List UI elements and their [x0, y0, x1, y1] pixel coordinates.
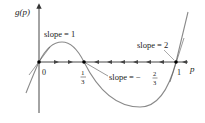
- g-curve: [26, 12, 188, 107]
- arrow-left-icon: [94, 60, 99, 64]
- slope-label-at-1: slope = 2: [137, 40, 168, 50]
- y-axis-label: g(p): [15, 7, 30, 17]
- arrow-left-icon: [182, 60, 187, 64]
- arrow-right-icon: [68, 60, 73, 64]
- slope-label-at-one-third-num: 2: [153, 70, 156, 77]
- point-label-1: 1: [177, 68, 181, 77]
- slope-label-at-0: slope = 1: [44, 29, 75, 39]
- point-label-one-third-den: 3: [81, 78, 85, 86]
- arrow-left-icon: [107, 60, 112, 64]
- equilibrium-point-1: [174, 60, 178, 64]
- equilibrium-point-one-third: [82, 60, 86, 64]
- arrow-left-icon: [146, 60, 151, 64]
- arrow-left-icon: [159, 60, 164, 64]
- point-label-0: 0: [42, 68, 46, 77]
- slope-label-at-one-third: slope = −: [109, 72, 141, 82]
- slope-label-at-one-third-den: 3: [153, 79, 156, 86]
- arrow-left-icon: [120, 60, 125, 64]
- equilibrium-point-0: [37, 60, 41, 64]
- phase-line-diagram: g(p) p 0 1 3 1 slope = 1 slope = 2 slope…: [0, 0, 205, 123]
- x-axis-label: p: [189, 64, 195, 74]
- arrow-left-icon: [133, 60, 138, 64]
- arrow-right-icon: [54, 60, 59, 64]
- point-label-one-third-num: 1: [81, 69, 85, 77]
- slope-2-leader: [164, 50, 174, 60]
